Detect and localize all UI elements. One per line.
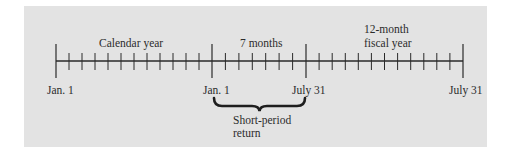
date-label-july31-mid: July 31 bbox=[292, 84, 326, 96]
brace-label-line2: return bbox=[233, 127, 260, 139]
segment-label-calendar-year: Calendar year bbox=[99, 37, 163, 49]
brace-icon bbox=[214, 98, 305, 111]
date-label-jan1-start: Jan. 1 bbox=[47, 84, 74, 96]
segment-label-fiscal-line1: 12-month bbox=[364, 23, 409, 35]
brace-label-line1: Short-period bbox=[233, 114, 291, 126]
segment-label-7-months: 7 months bbox=[240, 37, 283, 49]
date-label-july31-end: July 31 bbox=[449, 84, 483, 96]
date-label-jan1-mid: Jan. 1 bbox=[203, 84, 230, 96]
segment-label-fiscal-line2: fiscal year bbox=[364, 37, 412, 49]
